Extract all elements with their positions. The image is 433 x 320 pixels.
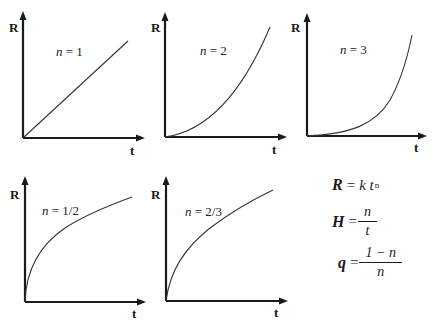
panel-label-n-1: n = 1	[56, 45, 83, 58]
x-axis-label: t	[130, 144, 134, 157]
x-axis-label: t	[274, 306, 278, 319]
x-axis-arrow-icon	[137, 299, 146, 306]
x-axis-arrow-icon	[136, 135, 145, 142]
x-axis-arrow-icon	[279, 298, 288, 305]
x-axis-label: t	[414, 141, 418, 154]
panel-label-n-1-2: n = 1/2	[42, 204, 79, 217]
panel-label-n-2-3: n = 2/3	[185, 205, 222, 218]
panel-n-2-3	[163, 176, 289, 305]
fraction: 1 − n n	[362, 245, 398, 280]
y-axis-arrow-icon	[22, 176, 29, 185]
y-axis-arrow-icon	[304, 13, 311, 22]
formula-h-equals-n-over-t: H = n t	[332, 204, 399, 239]
fraction: n t	[361, 204, 374, 239]
panel-label-n-3: n = 3	[340, 43, 367, 56]
y-axis-arrow-icon	[20, 11, 27, 20]
x-axis-label: t	[132, 307, 136, 320]
panel-n-2	[162, 12, 288, 141]
y-axis-label: R	[291, 21, 300, 34]
y-axis-label: R	[9, 21, 18, 34]
formula-block: R = k tn H = n t q = 1 − n n	[332, 176, 399, 286]
panel-label-n-2: n = 2	[200, 44, 227, 57]
x-axis-arrow-icon	[418, 133, 427, 140]
y-axis-label: R	[151, 188, 160, 201]
formula-q-equals-1-minus-n-over-n: q = 1 − n n	[338, 245, 399, 280]
x-axis-label: t	[272, 143, 276, 156]
x-axis-arrow-icon	[278, 134, 287, 141]
y-axis-label: R	[151, 21, 160, 34]
panel-n-3	[304, 13, 428, 140]
y-axis-label: R	[10, 188, 19, 201]
y-axis-arrow-icon	[163, 176, 170, 185]
panel-n-1	[20, 11, 146, 142]
y-axis-arrow-icon	[162, 12, 169, 21]
formula-r-equals-kt-n: R = k tn	[332, 176, 399, 194]
panel-n-1-2	[22, 176, 147, 306]
